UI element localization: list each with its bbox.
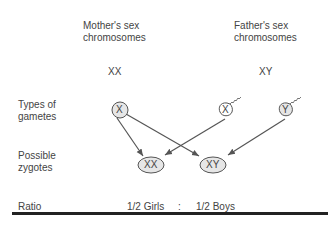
arrow-egg-to-xx: [117, 118, 143, 156]
gamete-sperm-y-label: Y: [282, 104, 289, 116]
gamete-sperm-x-label: X: [222, 104, 229, 116]
arrow-egg-to-xy: [126, 114, 199, 156]
gamete-egg-label: X: [116, 104, 123, 116]
zygote-xy-label: XY: [206, 159, 219, 171]
cross-diagram: [0, 0, 332, 237]
zygote-xx-label: XX: [144, 159, 157, 171]
bottom-rule: [12, 212, 328, 215]
arrow-spermx-to-xx: [165, 119, 225, 155]
arrow-spermy-to-xy: [228, 119, 285, 155]
